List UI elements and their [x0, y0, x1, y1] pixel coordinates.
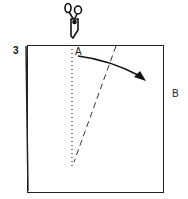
point-a-label: A	[75, 46, 82, 57]
step-number: 3	[13, 45, 19, 56]
paper-square	[28, 46, 164, 193]
diagram-canvas	[0, 0, 188, 199]
scissors-icon	[65, 4, 82, 39]
point-b-label: B	[172, 88, 179, 99]
